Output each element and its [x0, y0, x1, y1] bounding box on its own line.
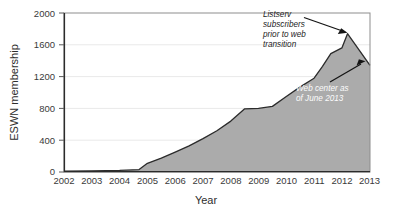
annotation-listserv-line-2: subscribers	[263, 20, 305, 29]
y-tick-label-1600: 1600	[34, 39, 55, 50]
annotation-web-center-line-1: Web center as	[296, 84, 349, 93]
x-tick-label-2003: 2003	[81, 175, 102, 186]
y-axis-title: ESWN membership	[8, 44, 20, 141]
y-tick-label-800: 800	[39, 103, 55, 114]
x-tick-label-2007: 2007	[193, 175, 214, 186]
x-tick-label-2006: 2006	[165, 175, 186, 186]
y-tick-label-1200: 1200	[34, 71, 55, 82]
annotation-listserv-line-4: transition	[263, 40, 297, 49]
annotation-web-center-line-2: of June 2013	[296, 94, 344, 103]
x-tick-label-2011: 2011	[304, 175, 324, 186]
x-tick-label-2013: 2013	[359, 175, 380, 186]
eswn-membership-area-chart: 2000 1600 1200 800 400 0 2002 2003 2004 …	[0, 0, 396, 215]
x-tick-label-2009: 2009	[248, 175, 269, 186]
annotation-listserv-line-1: Listserv	[263, 10, 292, 19]
x-tick-label-2002: 2002	[53, 175, 74, 186]
x-tick-label-2004: 2004	[109, 175, 130, 186]
x-tick-label-2005: 2005	[137, 175, 158, 186]
x-tick-label-2012: 2012	[332, 175, 353, 186]
x-tick-label-2010: 2010	[276, 175, 297, 186]
x-axis-title: Year	[195, 194, 218, 206]
y-tick-label-2000: 2000	[34, 8, 55, 19]
annotation-listserv-line-3: prior to web	[262, 30, 306, 39]
x-tick-label-2008: 2008	[220, 175, 241, 186]
chart-figure: 2000 1600 1200 800 400 0 2002 2003 2004 …	[0, 0, 396, 215]
y-tick-label-400: 400	[39, 135, 55, 146]
y-tick-marks	[59, 13, 64, 172]
